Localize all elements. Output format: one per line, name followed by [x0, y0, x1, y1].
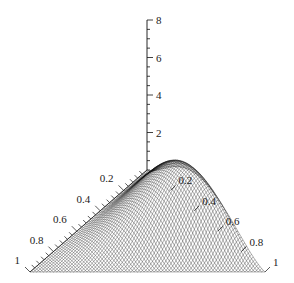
right-tick-label: 0.8	[249, 236, 263, 248]
left-tick-label: 0.8	[30, 234, 44, 246]
z-axis: 2468	[147, 14, 162, 170]
z-tick-label: 6	[156, 52, 162, 64]
right-tick-label: 0.4	[202, 195, 216, 207]
left-tick-label: 0.2	[100, 172, 114, 184]
right-tick-label: 1	[273, 256, 279, 268]
z-tick-label: 4	[156, 89, 162, 101]
left-tick-label: 0.6	[53, 213, 67, 225]
right-tick-label: 0.2	[179, 174, 193, 186]
chart-canvas: 2468 0.20.40.60.81 0.20.40.60.81	[0, 0, 294, 283]
z-tick-label: 2	[156, 127, 162, 139]
z-tick-label: 8	[156, 14, 162, 26]
left-tick-label: 1	[15, 254, 21, 266]
right-tick-label: 0.6	[226, 215, 240, 227]
left-tick-label: 0.4	[76, 193, 90, 205]
surface-chart: 2468 0.20.40.60.81 0.20.40.60.81	[0, 0, 294, 283]
